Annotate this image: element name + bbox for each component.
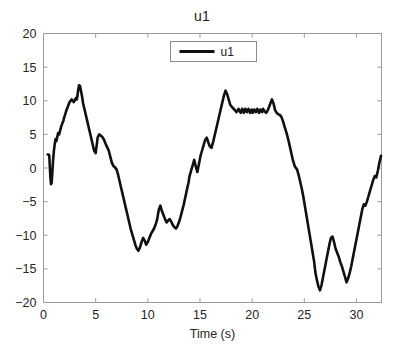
x-tick-label: 10: [141, 308, 155, 322]
y-tick-label: −20: [15, 296, 36, 310]
x-tick-label: 5: [92, 308, 99, 322]
chart-plot: 20151050−5−10−15−20 051015202530 u1 Time…: [0, 0, 404, 350]
x-tick-label: 25: [297, 308, 311, 322]
y-tick-label: 0: [30, 162, 37, 176]
x-tick-label: 30: [350, 308, 364, 322]
chart-legend: u1: [171, 42, 257, 62]
y-tick-label: 15: [23, 61, 37, 75]
y-tick-label: 20: [23, 27, 37, 41]
plot-background: [44, 34, 382, 303]
x-tick-label: 15: [193, 308, 207, 322]
y-tick-label: 5: [30, 128, 37, 142]
y-tick-label: 10: [23, 94, 37, 108]
y-tick-label: −5: [22, 195, 36, 209]
x-axis-title: Time (s): [190, 327, 235, 341]
x-tick-label: 0: [40, 308, 47, 322]
figure-container: u1 20151050−5−10−15−20 051015202530 u1 T…: [0, 0, 404, 350]
y-tick-label: −10: [15, 229, 36, 243]
y-tick-label: −15: [15, 262, 36, 276]
x-tick-label: 20: [245, 308, 259, 322]
legend-label-u1: u1: [221, 45, 235, 59]
